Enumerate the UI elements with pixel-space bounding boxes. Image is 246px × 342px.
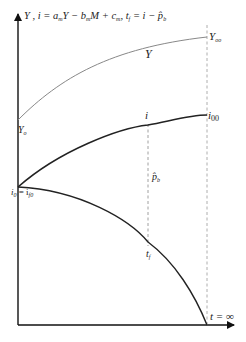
y-curve bbox=[18, 37, 207, 120]
tf-label: tf bbox=[146, 249, 150, 260]
i-00-label: i00 bbox=[208, 110, 219, 123]
diagram-canvas bbox=[0, 0, 246, 342]
tf-curve bbox=[18, 187, 207, 325]
axis-title: Y , i = amY − bmM + cm, tf = i − p̂b bbox=[24, 11, 166, 22]
y-zero-label: Yo bbox=[18, 125, 27, 136]
y-infinity-label: Yoo bbox=[209, 31, 221, 43]
i-zero-equals-if0-label: i0 = if0 bbox=[11, 188, 33, 198]
pb-label: p̂b bbox=[152, 172, 160, 183]
i-curve bbox=[18, 115, 207, 187]
t-infinity-label: t = ∞ bbox=[210, 311, 234, 322]
i-point-label: i bbox=[145, 110, 148, 121]
y-curve-label: Y bbox=[145, 48, 152, 60]
